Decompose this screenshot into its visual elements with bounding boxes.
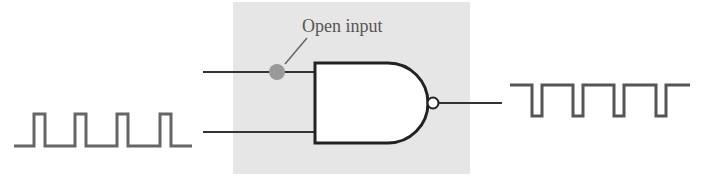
input-waveform [14,114,192,146]
nand-open-input-diagram: Open input [0,0,707,176]
nand-gate-body [315,63,428,143]
output-waveform [510,85,690,116]
inversion-bubble [428,98,439,109]
open-input-dot [269,64,285,80]
open-input-label: Open input [302,16,383,36]
